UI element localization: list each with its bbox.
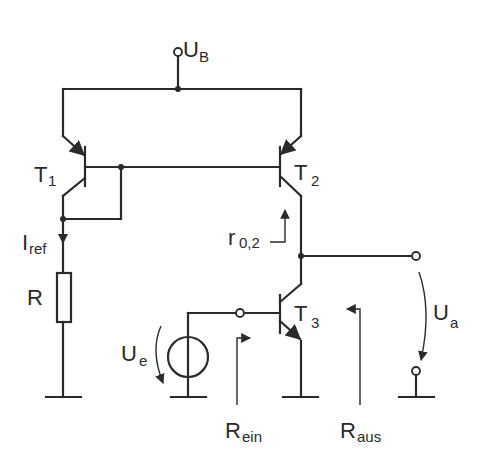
supply-rail <box>63 86 301 92</box>
output: U a <box>298 252 459 397</box>
transistor-t2: T 2 <box>280 89 319 256</box>
resistor-label: R <box>27 285 43 310</box>
t3-label: T <box>294 301 307 326</box>
t1-label: T <box>34 162 47 187</box>
rein-label: R <box>225 418 241 443</box>
r02-label-sub: 0,2 <box>239 234 260 251</box>
reference-branch: I ref R <box>22 219 81 397</box>
rein-annotation: R ein <box>225 338 262 445</box>
r02-label: r <box>228 225 235 250</box>
supply-label: U <box>183 37 199 62</box>
base-connection <box>60 164 280 222</box>
transistor-t1: T 1 <box>34 89 85 219</box>
raus-label-sub: aus <box>357 428 381 445</box>
ua-label-sub: a <box>450 314 459 331</box>
supply-label-sub: B <box>199 48 209 65</box>
raus-annotation: R aus <box>340 309 381 445</box>
t2-label-sub: 2 <box>311 172 319 189</box>
raus-label: R <box>340 418 356 443</box>
transistor-t3: T 3 <box>280 256 319 397</box>
iref-label-sub: ref <box>29 240 47 257</box>
t2-label: T <box>294 160 307 185</box>
r02-annotation: r 0,2 <box>228 210 285 251</box>
iref-label: I <box>22 230 28 255</box>
ue-label: U <box>121 341 137 366</box>
ua-label: U <box>433 300 449 325</box>
input-source: U e <box>121 309 280 397</box>
ue-label-sub: e <box>139 352 147 369</box>
t1-label-sub: 1 <box>48 172 56 189</box>
circuit-diagram: U B T 1 T 2 r 0,2 <box>0 0 488 468</box>
t3-label-sub: 3 <box>311 314 319 331</box>
rein-label-sub: ein <box>242 428 262 445</box>
supply-terminal: U B <box>174 37 209 89</box>
